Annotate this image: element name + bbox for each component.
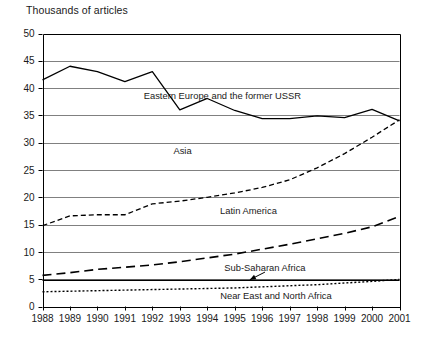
x-tick-label: 1999: [333, 313, 356, 324]
x-tick-label: 1993: [169, 313, 192, 324]
x-tick-label: 2000: [361, 313, 384, 324]
x-tick-label: 1991: [114, 313, 137, 324]
series-label-0: Eastern Europe and the former USSR: [144, 90, 302, 101]
y-tick-label: 20: [23, 192, 35, 203]
y-tick-label: 35: [23, 110, 35, 121]
series-label-1: Asia: [173, 145, 192, 156]
y-tick-label: 25: [23, 165, 35, 176]
x-tick-label: 1996: [251, 313, 274, 324]
x-tick-labels-group: 1988198919901991199219931994199519961997…: [31, 313, 411, 324]
series-label-2: Latin America: [220, 205, 278, 216]
line-chart-plot: 05101520253035404550 1988198919901991199…: [0, 0, 426, 342]
y-tick-label: 30: [23, 137, 35, 148]
x-tick-label: 1990: [86, 313, 109, 324]
x-tick-label: 1998: [306, 313, 329, 324]
x-tick-label: 1995: [224, 313, 247, 324]
y-tick-labels-group: 05101520253035404550: [23, 28, 35, 312]
y-tick-label: 40: [23, 83, 35, 94]
x-tick-label: 1994: [196, 313, 219, 324]
x-tick-label: 1989: [59, 313, 82, 324]
y-tick-label: 10: [23, 247, 35, 258]
y-tick-marks-group: [39, 35, 43, 308]
x-tick-label: 1992: [141, 313, 164, 324]
x-tick-label: 1988: [31, 313, 54, 324]
series-label-3: Sub-Saharan Africa: [224, 262, 306, 273]
y-tick-label: 15: [23, 219, 35, 230]
x-tick-label: 2001: [388, 313, 411, 324]
series-label-4: Near East and North Africa: [220, 290, 332, 301]
x-tick-label: 1997: [279, 313, 302, 324]
chart-container: Thousands of articles 051015202530354045…: [0, 0, 426, 342]
series-annotations-group: Eastern Europe and the former USSRAsiaLa…: [144, 90, 333, 301]
y-tick-label: 50: [23, 28, 35, 39]
y-tick-label: 5: [29, 274, 35, 285]
y-tick-label: 45: [23, 55, 35, 66]
y-tick-label: 0: [29, 301, 35, 312]
